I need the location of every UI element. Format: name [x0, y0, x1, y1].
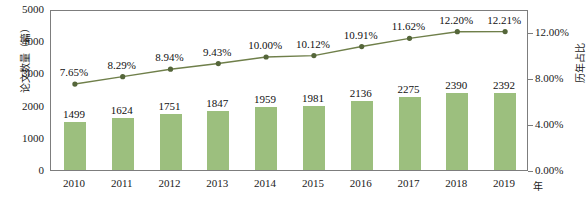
bar-value-label: 1959: [242, 93, 288, 105]
x-axis-tick-label: 2014: [242, 177, 288, 189]
x-axis-tick-label: 2017: [386, 177, 432, 189]
bar-2011: [112, 118, 134, 170]
x-axis-tick-label: 2012: [147, 177, 193, 189]
line-marker-2013: [216, 61, 221, 66]
bar-value-label: 1847: [194, 97, 240, 109]
bar-2019: [494, 93, 516, 170]
x-axis-tick-label: 2016: [338, 177, 384, 189]
bar-2016: [351, 101, 373, 170]
y-axis-right-tick-label: 0.00%: [535, 164, 587, 176]
percentage-value-label: 12.21%: [476, 14, 532, 26]
bar-2010: [64, 122, 86, 170]
line-marker-2017: [407, 36, 412, 41]
line-marker-2012: [168, 67, 173, 72]
chart-container: 论文数量（篇） 历年占比 5000 4000 3000 2000 1000 0 …: [0, 0, 588, 197]
y-axis-right-tick-mark: [528, 33, 533, 34]
line-marker-2015: [311, 53, 316, 58]
x-axis-tick-label: 2013: [194, 177, 240, 189]
y-axis-left-tick-label: 5000: [8, 3, 44, 15]
line-marker-2016: [359, 44, 364, 49]
bar-value-label: 2275: [386, 83, 432, 95]
bar-2018: [446, 93, 468, 170]
x-axis-tick-label: 2018: [433, 177, 479, 189]
x-axis-unit-label: 年: [533, 178, 543, 193]
y-axis-left-tick-label: 0: [8, 164, 44, 176]
bar-value-label: 1499: [51, 108, 97, 120]
x-axis-tick-label: 2015: [290, 177, 336, 189]
bar-2017: [399, 97, 421, 170]
bar-value-label: 2392: [481, 79, 527, 91]
x-axis-tick-label: 2010: [51, 177, 97, 189]
bar-value-label: 2390: [433, 79, 479, 91]
line-marker-2011: [120, 74, 125, 79]
y-axis-left-tick-label: 4000: [8, 35, 44, 47]
line-marker-2010: [72, 81, 77, 86]
bar-value-label: 1981: [290, 92, 336, 104]
bar-value-label: 2136: [338, 87, 384, 99]
x-axis-tick-label: 2011: [99, 177, 145, 189]
line-marker-2018: [455, 29, 460, 34]
bar-2013: [207, 111, 229, 170]
y-axis-left-tick-label: 3000: [8, 67, 44, 79]
y-axis-right-tick-mark: [528, 79, 533, 80]
y-axis-right-tick-label: 4.00%: [535, 118, 587, 130]
y-axis-right-tick-label: 12.00%: [535, 26, 587, 38]
x-axis-tick-label: 2019: [481, 177, 527, 189]
line-marker-2019: [503, 29, 508, 34]
bar-value-label: 1751: [147, 100, 193, 112]
bar-2014: [255, 107, 277, 170]
bar-value-label: 1624: [99, 104, 145, 116]
y-axis-left-tick-label: 1000: [8, 132, 44, 144]
y-axis-right-tick-mark: [528, 171, 533, 172]
bar-2015: [303, 106, 325, 170]
y-axis-right-tick-mark: [528, 125, 533, 126]
bar-2012: [160, 114, 182, 170]
y-axis-right-tick-label: 8.00%: [535, 72, 587, 84]
line-marker-2014: [264, 54, 269, 59]
y-axis-left-tick-label: 2000: [8, 100, 44, 112]
y-axis-left-title: 论文数量（篇）: [17, 8, 32, 108]
